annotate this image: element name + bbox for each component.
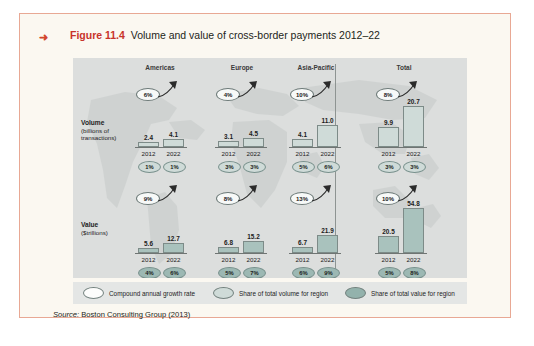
baseline-axis (215, 147, 267, 148)
growth-arrow-icon (311, 80, 333, 100)
bar-group-volume-asia-pacific: 4.111.0 (289, 104, 341, 148)
share-pill-2012: 5% (292, 161, 315, 173)
legend-item-volume-share: Share of total volume for region (213, 287, 328, 299)
year-label-2022: 2022 (159, 256, 188, 263)
bar-group-value-asia-pacific: 6.721.9 (289, 208, 341, 254)
share-pill-2022: 9% (317, 267, 340, 278)
source-text: Boston Consulting Group (2013) (79, 310, 190, 319)
year-label-2022: 2022 (159, 150, 188, 157)
share-pill-2022: 7% (243, 267, 266, 278)
bar-value-label: 11.0 (313, 117, 342, 124)
bar-group-value-americas: 5.612.7 (135, 208, 187, 254)
row-label-value: Value ($trillions) (81, 221, 108, 236)
source-note: Source: Boston Consulting Group (2013) (53, 310, 190, 319)
baseline-axis (215, 253, 267, 254)
row-label-value-unit-1: ($trillions) (81, 229, 108, 236)
share-pill-2012: 4% (138, 267, 161, 278)
bar-2022 (243, 138, 264, 147)
legend-label-cagr: Compound annual growth rate (109, 290, 195, 297)
chart-legend: Compound annual growth rate Share of tot… (73, 282, 467, 304)
bar-2012 (378, 236, 399, 253)
year-label-2022: 2022 (313, 256, 342, 263)
bar-group-volume-total: 9.920.7 (375, 104, 427, 148)
bar-2022 (317, 235, 338, 253)
row-label-value-title: Value (81, 221, 98, 228)
growth-arrow-icon (157, 184, 179, 204)
row-label-volume-unit-1: (billions of (81, 127, 109, 134)
bar-value-label: 9.9 (374, 119, 403, 126)
bar-value-label: 15.2 (239, 233, 268, 240)
legend-swatch-volume-share-icon (213, 287, 234, 299)
growth-arrow-icon (237, 184, 259, 204)
share-pill-2022: 8% (403, 267, 426, 278)
bar-value-label: 21.9 (313, 227, 342, 234)
bar-2012 (138, 248, 159, 253)
bar-2022 (163, 243, 184, 253)
figure-title-row: ➜ Figure 11.4 Volume and value of cross-… (20, 28, 510, 48)
growth-arrow-icon (311, 184, 333, 204)
figure-card: ➜ Figure 11.4 Volume and value of cross-… (19, 13, 511, 318)
page-title: Figure 11.4 Volume and value of cross-bo… (70, 28, 380, 42)
year-label-2022: 2022 (239, 150, 268, 157)
growth-arrow-icon (237, 80, 259, 100)
bar-value-label: 4.1 (159, 131, 188, 138)
right-arrow-icon: ➜ (39, 32, 48, 43)
bar-2022 (403, 208, 424, 253)
row-label-volume: Volume (billions of transactions) (81, 119, 116, 142)
column-header-asia-pacific: Asia-Pacific (281, 64, 351, 71)
bar-group-value-europe: 6.815.2 (215, 208, 267, 254)
legend-label-value-share: Share of total value for region (371, 290, 455, 297)
baseline-axis (135, 253, 187, 254)
baseline-axis (375, 147, 427, 148)
share-pill-2022: 3% (243, 161, 266, 173)
row-label-volume-title: Volume (81, 119, 104, 126)
bar-2022 (163, 139, 184, 147)
share-pill-2012: 5% (218, 267, 241, 278)
baseline-axis (135, 147, 187, 148)
bar-2012 (218, 141, 239, 147)
bar-group-volume-europe: 3.14.5 (215, 104, 267, 148)
bar-2022 (317, 125, 338, 147)
share-pill-2012: 3% (378, 161, 401, 173)
share-pill-2012: 6% (292, 267, 315, 278)
bar-2022 (403, 106, 424, 147)
bar-value-label: 6.7 (288, 239, 317, 246)
share-pill-2012: 1% (138, 161, 161, 173)
bar-2012 (138, 142, 159, 147)
bar-group-value-total: 20.554.8 (375, 208, 427, 254)
year-label-2022: 2022 (313, 150, 342, 157)
share-pill-2012: 5% (378, 267, 401, 278)
source-prefix: Source: (53, 310, 79, 319)
column-header-americas: Americas (125, 64, 195, 71)
row-label-volume-unit-2: transactions) (81, 134, 116, 141)
bar-2012 (292, 247, 313, 253)
growth-arrow-icon (397, 80, 419, 100)
baseline-axis (375, 253, 427, 254)
bar-value-label: 6.8 (214, 239, 243, 246)
growth-arrow-icon (397, 184, 419, 204)
baseline-axis (289, 147, 341, 148)
column-header-europe: Europe (207, 64, 277, 71)
legend-label-volume-share: Share of total volume for region (239, 290, 328, 297)
bar-value-label: 12.7 (159, 235, 188, 242)
bar-2012 (292, 139, 313, 147)
legend-swatch-value-share-icon (345, 287, 366, 299)
growth-arrow-icon (157, 80, 179, 100)
bar-value-label: 4.1 (288, 131, 317, 138)
bar-2022 (243, 241, 264, 253)
legend-item-value-share: Share of total value for region (345, 287, 455, 299)
year-label-2022: 2022 (239, 256, 268, 263)
figure-number: Figure 11.4 (70, 29, 125, 41)
legend-swatch-cagr-icon (83, 287, 104, 299)
baseline-axis (289, 253, 341, 254)
year-label-2022: 2022 (399, 256, 428, 263)
column-header-total: Total (369, 64, 439, 71)
bar-value-label: 20.5 (374, 228, 403, 235)
share-pill-2022: 1% (163, 161, 186, 173)
chart-panel: Americas Europe Asia-Pacific Total Volum… (73, 58, 467, 278)
share-pill-2022: 6% (163, 267, 186, 278)
year-label-2022: 2022 (399, 150, 428, 157)
share-pill-2022: 6% (317, 161, 340, 173)
share-pill-2012: 3% (218, 161, 241, 173)
bar-value-label: 4.5 (239, 130, 268, 137)
